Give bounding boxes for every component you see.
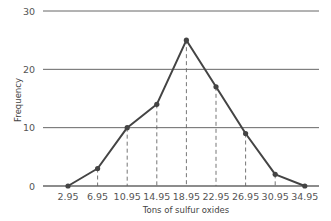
y-axis-ticks: 0102030	[23, 6, 35, 192]
x-tick-label: 2.95	[57, 191, 78, 202]
data-point	[184, 38, 189, 43]
data-point	[65, 183, 70, 188]
x-axis-ticks: 2.956.9510.9514.9518.9522.9526.9530.9534…	[57, 191, 318, 202]
x-axis-label: Tons of sulfur oxides	[142, 205, 230, 215]
x-tick-label: 26.95	[232, 191, 259, 202]
y-tick-label: 20	[23, 64, 35, 75]
dashed-drop-lines	[98, 40, 276, 186]
horizontal-gridlines	[43, 11, 319, 186]
x-tick-label: 14.95	[143, 191, 170, 202]
data-point	[302, 183, 307, 188]
x-tick-label: 30.95	[262, 191, 289, 202]
frequency-polygon-chart: 0102030 2.956.9510.9514.9518.9522.9526.9…	[0, 0, 331, 221]
data-point	[213, 84, 218, 89]
data-point	[154, 102, 159, 107]
x-tick-label: 34.95	[291, 191, 318, 202]
x-tick-label: 22.95	[202, 191, 229, 202]
x-tick-label: 18.95	[173, 191, 200, 202]
x-tick-label: 6.95	[87, 191, 108, 202]
data-point	[95, 166, 100, 171]
data-point	[125, 125, 130, 130]
data-point	[243, 131, 248, 136]
x-tick-label: 10.95	[114, 191, 141, 202]
y-tick-label: 30	[23, 6, 35, 17]
y-tick-label: 0	[29, 181, 35, 192]
data-point	[273, 172, 278, 177]
y-axis-label: Frequency	[13, 78, 23, 122]
y-tick-label: 10	[23, 122, 35, 133]
